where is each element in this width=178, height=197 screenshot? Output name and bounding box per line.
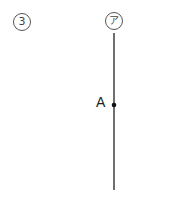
- point-label: A: [96, 94, 105, 110]
- point-a: [112, 103, 117, 108]
- diagram-canvas: [0, 0, 178, 197]
